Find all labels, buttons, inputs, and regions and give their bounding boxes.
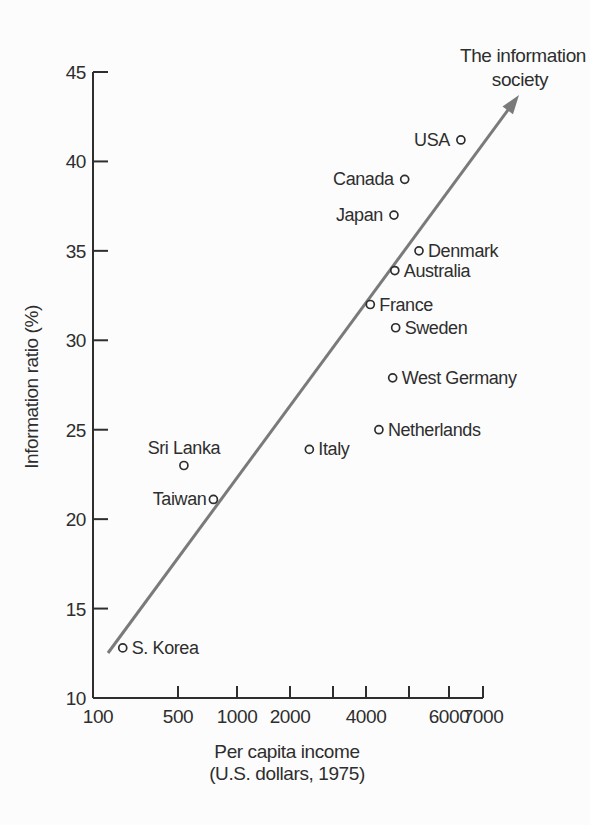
data-point-usa [457,136,465,144]
data-point-denmark [415,247,423,255]
y-axis-ticks: 4540353025201510 [66,62,108,709]
point-label-australia: Australia [404,261,472,281]
data-point-france [366,301,374,309]
data-point-taiwan [209,495,217,503]
data-point-sri-lanka [180,461,188,469]
y-tick-label: 40 [66,151,86,172]
y-tick-label: 25 [66,420,86,441]
point-label-japan: Japan [336,205,383,225]
data-point-sweden [392,324,400,332]
point-label-s-korea: S. Korea [132,638,200,658]
y-tick-label: 15 [66,599,86,620]
annotation-line-1: The information [460,45,586,66]
x-tick-label: 2000 [270,706,311,727]
x-axis-title-line-1: Per capita income [214,741,359,762]
x-tick-label: 7000 [463,706,504,727]
x-tick-label: 100 [83,706,114,727]
x-axis-title-line-2: (U.S. dollars, 1975) [209,763,365,784]
data-points: USACanadaJapanDenmarkAustraliaFranceSwed… [119,130,517,658]
point-label-denmark: Denmark [428,241,500,261]
data-point-italy [305,445,313,453]
x-axis-ticks: 10050010002000400060007000 [83,686,504,727]
point-label-usa: USA [414,130,450,150]
point-label-italy: Italy [318,439,349,459]
point-label-sweden: Sweden [405,318,468,338]
point-label-netherlands: Netherlands [388,420,481,440]
x-tick-label: 1000 [217,706,258,727]
scatter-chart: 10050010002000400060007000 4540353025201… [0,0,590,825]
trend-arrow-head [502,95,519,114]
data-point-canada [401,175,409,183]
x-tick-label: 4000 [346,706,387,727]
figure-page: 10050010002000400060007000 4540353025201… [0,0,590,825]
point-label-canada: Canada [333,169,395,189]
y-tick-label: 10 [66,688,86,709]
y-tick-label: 30 [66,330,86,351]
point-label-sri-lanka: Sri Lanka [148,438,222,458]
point-label-france: France [379,295,433,315]
data-point-s-korea [119,644,127,652]
data-point-netherlands [375,426,383,434]
data-point-west-germany [389,374,397,382]
x-tick-label: 500 [163,706,194,727]
annotation-line-2: society [492,69,549,90]
point-label-taiwan: Taiwan [153,489,207,509]
y-tick-label: 20 [66,509,86,530]
data-point-japan [390,211,398,219]
y-tick-label: 35 [66,241,86,262]
point-label-west-germany: West Germany [402,368,517,388]
y-tick-label: 45 [66,62,86,83]
data-point-australia [391,267,399,275]
y-axis-title: Information ratio (%) [21,305,42,469]
